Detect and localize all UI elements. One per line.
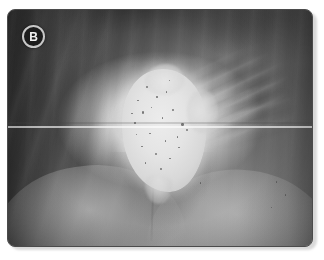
panel-label-letter: B: [29, 31, 38, 43]
panel-label-badge: B: [22, 25, 45, 48]
radiograph-image-frame[interactable]: B: [7, 9, 313, 247]
vignette-overlay: [8, 10, 312, 246]
radiograph-canvas: [8, 10, 312, 246]
figure-panel: B: [0, 0, 324, 260]
